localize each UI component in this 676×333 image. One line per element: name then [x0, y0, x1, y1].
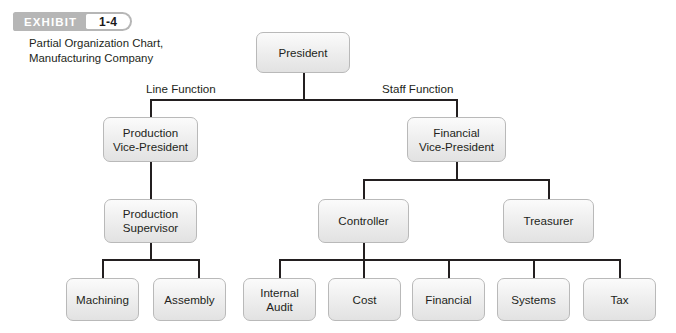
org-node-production-supervisor[interactable]: ProductionSupervisor — [104, 199, 197, 243]
connector-to-production-vp — [150, 99, 152, 117]
exhibit-figure: EXHIBIT 1-4 Partial Organization Chart, … — [0, 0, 676, 333]
branch-label-staff-function: Staff Function — [382, 82, 453, 95]
connector-to-controller — [363, 179, 365, 199]
exhibit-label: EXHIBIT — [13, 12, 86, 31]
org-node-internal-audit-line2: Audit — [257, 300, 302, 314]
connector-to-tax — [619, 259, 621, 278]
org-node-internal-audit[interactable]: InternalAudit — [243, 278, 316, 321]
org-node-production-vice-president-label: ProductionVice-President — [107, 126, 194, 153]
org-node-systems-label: Systems — [508, 293, 558, 307]
org-node-assembly-label: Assembly — [161, 293, 217, 307]
connector-supervisor-stem — [150, 243, 152, 260]
exhibit-number: 1-4 — [86, 14, 130, 29]
org-node-treasurer-label: Treasurer — [521, 214, 577, 228]
connector-president-stem — [303, 73, 305, 100]
exhibit-badge: EXHIBIT 1-4 — [13, 12, 132, 31]
org-node-production-supervisor-label: ProductionSupervisor — [117, 207, 184, 234]
connector-production-vp-to-supervisor — [150, 162, 152, 199]
org-node-financial[interactable]: Financial — [412, 278, 485, 321]
org-node-production-vp-line1: Production — [110, 126, 191, 140]
connector-to-internal-audit — [279, 259, 281, 278]
org-node-machining-label: Machining — [73, 293, 132, 307]
connector-financial-vp-stem — [456, 162, 458, 180]
connector-to-cost — [363, 259, 365, 278]
connector-controller-stem — [363, 243, 365, 260]
connector-financial-vp-bus — [363, 179, 549, 181]
connector-to-financial-vp — [456, 99, 458, 117]
org-node-internal-audit-line1: Internal — [257, 286, 302, 300]
org-node-cost[interactable]: Cost — [328, 278, 401, 321]
connector-to-systems — [533, 259, 535, 278]
connector-to-machining — [102, 259, 104, 278]
org-node-financial-vp-line1: Financial — [416, 126, 497, 140]
connector-supervisor-bus — [102, 259, 199, 261]
connector-to-assembly — [198, 259, 200, 278]
org-node-production-vp-line2: Vice-President — [110, 140, 191, 154]
org-node-tax-label: Tax — [607, 293, 631, 307]
org-node-production-vice-president[interactable]: ProductionVice-President — [103, 117, 198, 162]
org-node-production-supervisor-line2: Supervisor — [120, 221, 181, 235]
org-node-treasurer[interactable]: Treasurer — [503, 199, 594, 243]
org-node-president-label: President — [276, 46, 331, 60]
branch-label-line-function: Line Function — [146, 82, 216, 95]
org-node-controller[interactable]: Controller — [318, 199, 409, 243]
org-node-financial-vp-line2: Vice-President — [416, 140, 497, 154]
org-node-president[interactable]: President — [256, 32, 350, 73]
org-node-assembly[interactable]: Assembly — [153, 278, 226, 321]
figure-caption: Partial Organization Chart, Manufacturin… — [29, 36, 189, 65]
connector-to-treasurer — [548, 179, 550, 199]
connector-to-financial — [448, 259, 450, 278]
org-node-machining[interactable]: Machining — [66, 278, 139, 321]
org-node-controller-label: Controller — [335, 214, 391, 228]
org-node-financial-label: Financial — [422, 293, 474, 307]
org-node-cost-label: Cost — [350, 293, 380, 307]
org-node-financial-vice-president[interactable]: FinancialVice-President — [407, 117, 506, 162]
org-node-tax[interactable]: Tax — [583, 278, 656, 321]
org-node-systems[interactable]: Systems — [497, 278, 570, 321]
org-node-internal-audit-label: InternalAudit — [254, 286, 305, 313]
org-node-financial-vice-president-label: FinancialVice-President — [413, 126, 500, 153]
org-node-production-supervisor-line1: Production — [120, 207, 181, 221]
connector-level1-bus — [150, 99, 457, 101]
